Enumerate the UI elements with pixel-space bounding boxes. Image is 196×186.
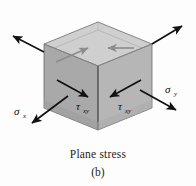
tau-xy-left-subscript: xy (82, 107, 90, 115)
sigma-y-symbol: σ (165, 83, 171, 95)
sigma-y-subscript: y (173, 90, 178, 98)
sigma-y-back-arrow (152, 26, 182, 44)
figure-caption-title: Plane stress (0, 148, 196, 160)
sigma-x-symbol: σ (14, 105, 20, 117)
plane-stress-figure: σ x σ y τ xy τ xy Plane stress (b) (0, 0, 196, 186)
sigma-x-subscript: x (22, 112, 27, 120)
figure-caption-subtitle: (b) (0, 166, 196, 178)
sigma-x-label: σ x (14, 105, 27, 120)
sigma-y-label: σ y (165, 83, 178, 98)
sigma-x-back-arrow (13, 36, 44, 52)
tau-xy-right-subscript: xy (124, 107, 132, 115)
